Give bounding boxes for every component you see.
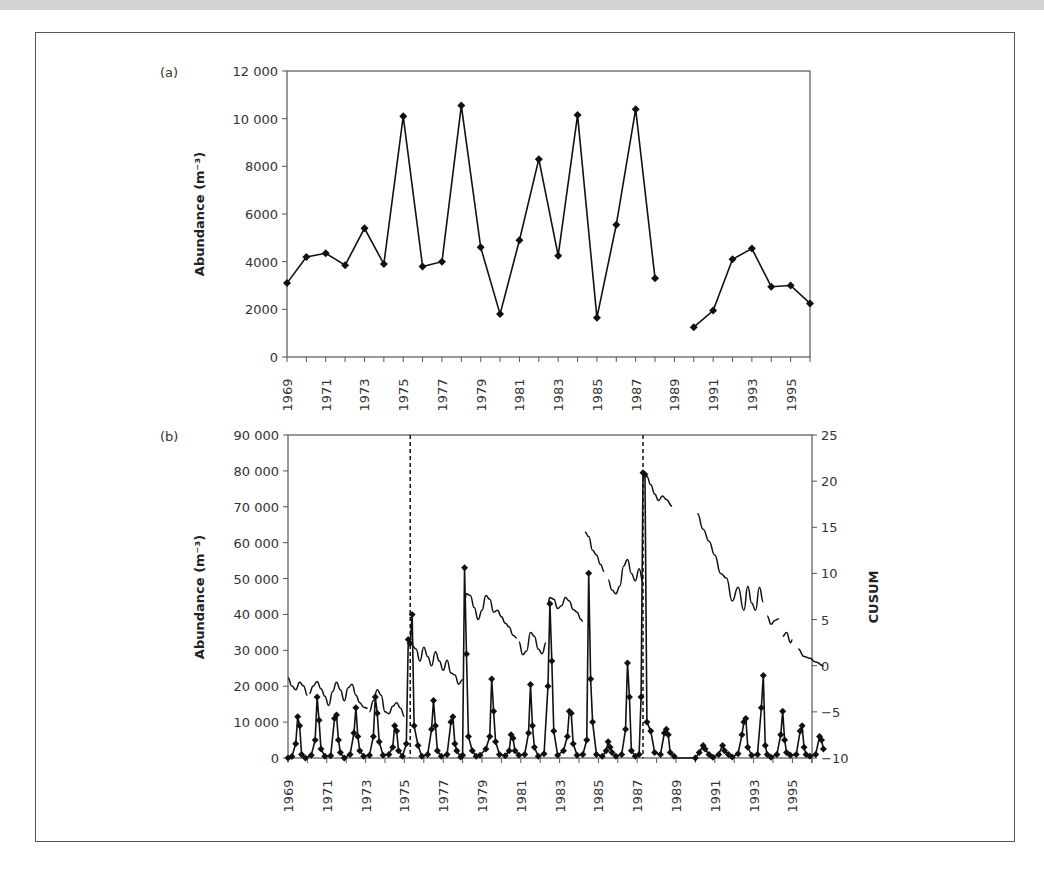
data-point-marker <box>777 731 784 738</box>
x-tick-label: 1973 <box>357 378 372 411</box>
x-tick-label: 1977 <box>436 779 451 812</box>
right-y-tick-label: −10 <box>821 751 848 766</box>
x-tick-label: 1995 <box>785 779 800 812</box>
cusum-line <box>767 616 779 624</box>
data-point-marker <box>399 112 407 120</box>
data-point-marker <box>593 314 601 322</box>
y-tick-label: 8000 <box>245 159 278 174</box>
data-point-marker <box>496 310 504 318</box>
data-point-marker <box>488 676 495 683</box>
y-tick-label: 2000 <box>245 302 278 317</box>
data-point-marker <box>486 733 493 740</box>
x-tick-label: 1985 <box>590 378 605 411</box>
data-point-marker <box>521 751 528 758</box>
data-point-marker <box>767 283 775 291</box>
right-y-tick-label: 10 <box>821 566 838 581</box>
panel-b-right-y-axis-title: CUSUM <box>866 571 881 624</box>
data-point-marker <box>341 261 349 269</box>
data-point-marker <box>544 683 551 690</box>
data-point-marker <box>612 221 620 229</box>
data-point-marker <box>622 726 629 733</box>
x-tick-label: 1991 <box>706 378 721 411</box>
data-point-marker <box>754 751 761 758</box>
cusum-line <box>412 645 462 684</box>
data-point-marker <box>593 751 600 758</box>
data-point-marker <box>360 224 368 232</box>
data-point-marker <box>760 672 767 679</box>
data-point-marker <box>744 744 751 751</box>
right-y-tick-label: 5 <box>821 613 829 628</box>
data-point-marker <box>418 753 425 760</box>
x-tick-label: 1969 <box>280 378 295 411</box>
data-point-marker <box>531 744 538 751</box>
panel-a-x-axis: 1969197119731975197719791981198319851987… <box>280 357 810 412</box>
data-point-marker <box>781 737 788 744</box>
x-tick-label: 1981 <box>514 779 529 812</box>
data-point-marker <box>389 744 396 751</box>
panel-b-change-point-lines <box>410 435 643 758</box>
y-tick-label: 80 000 <box>234 464 280 479</box>
data-point-marker <box>527 681 534 688</box>
data-point-marker <box>457 102 465 110</box>
data-point-marker <box>738 731 745 738</box>
panel-a-y-axis-title: Abundance (m⁻³) <box>192 152 207 276</box>
abundance-line <box>288 473 674 758</box>
data-point-marker <box>414 742 421 749</box>
y-tick-label: 70 000 <box>234 500 280 515</box>
data-point-marker <box>380 260 388 268</box>
cusum-line <box>288 678 307 696</box>
data-point-marker <box>793 751 800 758</box>
panel-a-label: (a) <box>160 65 178 80</box>
data-point-marker <box>352 704 359 711</box>
data-point-marker <box>317 746 324 753</box>
data-point-marker <box>651 749 658 756</box>
data-point-marker <box>535 155 543 163</box>
data-point-marker <box>451 740 458 747</box>
data-point-marker <box>574 111 582 119</box>
cusum-line <box>548 597 583 621</box>
panel-b-cusum-series <box>288 476 823 717</box>
panel-b-y-axis-title: Abundance (m⁻³) <box>192 535 207 659</box>
x-tick-label: 1975 <box>397 779 412 812</box>
x-tick-label: 1993 <box>745 378 760 411</box>
data-point-marker <box>321 753 328 760</box>
data-point-marker <box>496 751 503 758</box>
x-tick-label: 1987 <box>629 378 644 411</box>
panel-a-plot-area <box>287 71 810 357</box>
data-point-marker <box>529 722 536 729</box>
y-tick-label: 90 000 <box>234 428 280 443</box>
data-point-marker <box>515 236 523 244</box>
data-point-marker <box>385 751 392 758</box>
y-tick-label: 4000 <box>245 255 278 270</box>
data-point-marker <box>647 728 654 735</box>
y-tick-label: 0 <box>271 751 279 766</box>
data-point-marker <box>570 740 577 747</box>
panel-b-left-y-axis: 010 00020 00030 00040 00050 00060 00070 … <box>234 428 289 766</box>
series-line <box>694 249 810 328</box>
data-point-marker <box>477 243 485 251</box>
y-tick-label: 0 <box>270 350 278 365</box>
right-y-tick-label: 15 <box>821 520 838 535</box>
x-tick-label: 1979 <box>474 378 489 411</box>
data-point-marker <box>370 733 377 740</box>
figure-canvas: (a) 0200040006000800010 00012 000 196919… <box>0 0 1044 873</box>
data-point-marker <box>735 750 742 757</box>
data-point-marker <box>292 740 299 747</box>
x-tick-label: 1983 <box>551 378 566 411</box>
x-tick-label: 1979 <box>475 779 490 812</box>
x-tick-label: 1993 <box>747 779 762 812</box>
x-tick-label: 1981 <box>512 378 527 411</box>
x-tick-label: 1985 <box>591 779 606 812</box>
y-tick-label: 40 000 <box>234 607 280 622</box>
data-point-marker <box>729 255 737 263</box>
cusum-line <box>697 513 763 610</box>
data-point-marker <box>657 751 664 758</box>
y-tick-label: 50 000 <box>234 572 280 587</box>
cusum-line <box>798 649 823 666</box>
right-y-tick-label: −5 <box>821 705 840 720</box>
data-point-marker <box>554 252 562 260</box>
series-line <box>287 106 655 318</box>
data-point-marker <box>589 719 596 726</box>
data-point-marker <box>411 722 418 729</box>
cusum-line <box>608 560 643 594</box>
